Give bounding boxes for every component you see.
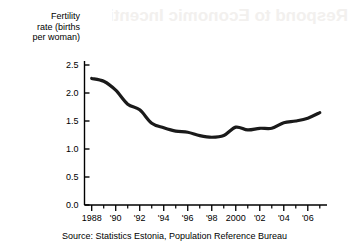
y-axis-tick-label: 2.5 [49,61,79,70]
y-axis-tick-label: 0.5 [49,173,79,182]
chart-source-note: Source: Statistics Estonia, Population R… [0,231,349,241]
y-axis-tick-label: 1.0 [49,145,79,154]
fertility-rate-chart-figure: Respond to Economic Incentives Fertility… [0,0,349,251]
y-axis-tick-label: 2.0 [49,89,79,98]
x-axis-tick-label: '06 [283,214,333,223]
y-axis-title: Fertility rate (births per woman) [2,11,80,43]
y-axis-tick-label: 1.5 [49,117,79,126]
fertility-rate-line [92,78,320,137]
y-axis-tick-label: 0.0 [49,201,79,210]
